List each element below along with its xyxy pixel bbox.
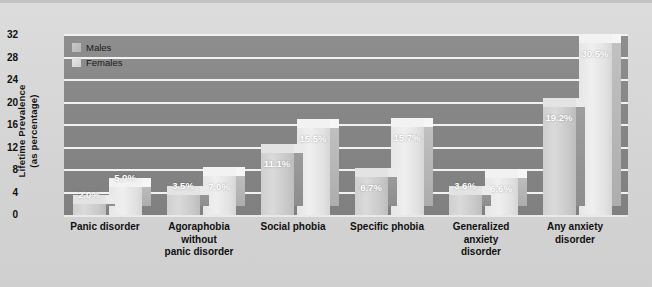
x-axis-label-line: without	[152, 234, 246, 247]
x-axis-label-line: Agoraphobia	[152, 221, 246, 234]
bar-top-face	[579, 34, 612, 43]
x-axis-label-4: Generalizedanxietydisorder	[434, 221, 528, 259]
y-axis-tick-8: 8	[0, 164, 18, 175]
legend-item-females: Females	[72, 56, 122, 69]
legend-item-males: Males	[72, 41, 122, 54]
x-axis-label-line: anxiety	[434, 234, 528, 247]
bar-front-face	[73, 204, 106, 215]
x-axis-label-line: disorder	[528, 234, 622, 247]
bar-top-corner	[236, 167, 245, 176]
y-axis-tick-16: 16	[0, 119, 18, 130]
bar-value-label: 15.7%	[394, 132, 421, 143]
bar-males-2[interactable]: 11.1%	[261, 153, 294, 215]
bar-males-3[interactable]: 6.7%	[355, 177, 388, 215]
x-axis-label-0: Panic disorder	[58, 221, 152, 234]
legend-label-females: Females	[86, 57, 122, 68]
x-axis-label-line: Any anxiety	[528, 221, 622, 234]
bar-top-face	[203, 167, 236, 176]
bar-top-corner	[106, 195, 115, 204]
chart-figure: Lifetime Prevalence (as percentage) 3228…	[0, 0, 652, 287]
bar-top-corner	[424, 118, 433, 127]
bar-top-face	[391, 118, 424, 127]
bar-value-label: 30.5%	[582, 48, 609, 59]
x-axis-label-3: Specific phobia	[340, 221, 434, 234]
bar-front-face	[449, 195, 482, 215]
bar-side-face	[424, 118, 433, 206]
bar-value-label: 3.6%	[454, 180, 476, 191]
bar-group: 19.2%30.5%	[534, 35, 628, 215]
y-axis-tick-28: 28	[0, 52, 18, 63]
y-axis-tick-12: 12	[0, 142, 18, 153]
bar-top-corner	[294, 144, 303, 153]
x-axis-label-line: Specific phobia	[340, 221, 434, 234]
bar-males-5[interactable]: 19.2%	[543, 107, 576, 215]
bar-group: 11.1%15.5%	[252, 35, 346, 215]
bar-value-label: 15.5%	[300, 133, 327, 144]
bar-value-label: 2.0%	[78, 189, 100, 200]
bar-group: 3.6%6.6%	[440, 35, 534, 215]
bar-side-face	[612, 34, 621, 206]
x-axis-label-5: Any anxietydisorder	[528, 221, 622, 246]
x-axis-label-line: panic disorder	[152, 246, 246, 259]
bar-males-1[interactable]: 3.5%	[167, 195, 200, 215]
x-axis-category-labels: Panic disorderAgoraphobiawithoutpanic di…	[64, 221, 628, 281]
bar-group: 3.5%7.0%	[158, 35, 252, 215]
bar-top-corner	[388, 168, 397, 177]
bar-top-face	[485, 169, 518, 178]
bar-top-face	[261, 144, 294, 153]
y-axis-tick-20: 20	[0, 97, 18, 108]
bar-front-face	[167, 195, 200, 215]
y-axis-tick-4: 4	[0, 187, 18, 198]
bar-value-label: 6.6%	[490, 183, 512, 194]
bar-top-corner	[612, 34, 621, 43]
x-axis-label-line: Panic disorder	[58, 221, 152, 234]
chart-legend: Males Females	[72, 41, 122, 71]
bar-value-label: 19.2%	[546, 112, 573, 123]
bar-males-0[interactable]: 2.0%	[73, 204, 106, 215]
bar-top-corner	[482, 186, 491, 195]
axis-baseline	[64, 215, 628, 217]
y-axis-tick-0: 0	[0, 209, 18, 220]
legend-label-males: Males	[86, 42, 111, 53]
y-axis-tick-32: 32	[0, 29, 18, 40]
bar-value-label: 7.0%	[208, 181, 230, 192]
bar-value-label: 3.5%	[172, 180, 194, 191]
y-axis-tick-24: 24	[0, 74, 18, 85]
bar-side-face	[576, 98, 585, 206]
bar-front-face	[543, 107, 576, 215]
legend-swatch-males	[72, 43, 81, 52]
bar-top-face	[355, 168, 388, 177]
bar-top-corner	[518, 169, 527, 178]
x-axis-label-line: Generalized	[434, 221, 528, 234]
plot-area: 2.0%5.0%3.5%7.0%11.1%15.5%6.7%15.7%3.6%6…	[64, 35, 628, 215]
bar-side-face	[330, 119, 339, 206]
x-axis-label-1: Agoraphobiawithoutpanic disorder	[152, 221, 246, 259]
bar-top-corner	[200, 186, 209, 195]
x-axis-label-2: Social phobia	[246, 221, 340, 234]
x-axis-label-line: disorder	[434, 246, 528, 259]
bar-value-label: 6.7%	[360, 182, 382, 193]
bar-group: 6.7%15.7%	[346, 35, 440, 215]
bar-value-label: 5.0%	[114, 172, 136, 183]
bar-males-4[interactable]: 3.6%	[449, 195, 482, 215]
x-axis-label-line: Social phobia	[246, 221, 340, 234]
bar-top-corner	[576, 98, 585, 107]
bar-top-face	[543, 98, 576, 107]
bar-value-label: 11.1%	[264, 158, 290, 169]
bar-top-corner	[330, 119, 339, 128]
bar-top-corner	[142, 178, 151, 187]
bar-top-face	[297, 119, 330, 128]
bar-side-face	[294, 144, 303, 206]
legend-swatch-females	[72, 58, 81, 67]
